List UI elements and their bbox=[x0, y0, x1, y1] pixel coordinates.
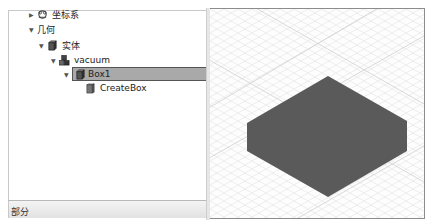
selection-highlight[interactable]: Box1 bbox=[72, 67, 207, 81]
3d-viewport[interactable] bbox=[210, 8, 425, 219]
tree-item-label: Box1 bbox=[88, 69, 110, 79]
expand-arrow-icon[interactable]: ▶ bbox=[29, 11, 37, 18]
collapse-arrow-icon[interactable]: ▼ bbox=[39, 42, 47, 49]
tree-item-label: 坐标系 bbox=[52, 8, 79, 21]
tree-item-label: 几何 bbox=[37, 23, 55, 36]
collapse-arrow-icon[interactable]: ▼ bbox=[64, 71, 72, 78]
coordinate-system-icon bbox=[37, 9, 48, 20]
collapse-arrow-icon[interactable]: ▼ bbox=[29, 26, 37, 33]
tree-item-box1[interactable]: ▼ Box1 bbox=[64, 67, 207, 81]
tree-item-createbox[interactable]: CreateBox bbox=[85, 81, 147, 95]
tree-item-geometry[interactable]: ▼ 几何 bbox=[29, 22, 55, 36]
model-tree[interactable]: ▶ 坐标系 ▼ 几何 ▼ 实体 ▼ vacuum ▼ bbox=[8, 10, 206, 200]
tree-item-label: CreateBox bbox=[100, 83, 147, 93]
tree-item-label: 实体 bbox=[62, 39, 80, 52]
tree-item-vacuum[interactable]: ▼ vacuum bbox=[51, 53, 110, 67]
tree-item-coordinate-system[interactable]: ▶ 坐标系 bbox=[29, 7, 79, 21]
create-box-icon bbox=[85, 83, 96, 94]
collapse-arrow-icon[interactable]: ▼ bbox=[51, 57, 59, 64]
box-icon bbox=[75, 69, 86, 80]
tree-item-solids[interactable]: ▼ 实体 bbox=[39, 38, 80, 52]
properties-tab-label[interactable]: 部分 bbox=[11, 207, 29, 217]
isometric-grid bbox=[210, 9, 425, 219]
solid-icon bbox=[47, 40, 58, 51]
properties-tab-bar[interactable]: 部分 bbox=[8, 200, 206, 218]
group-icon bbox=[59, 55, 70, 66]
tree-item-label: vacuum bbox=[74, 55, 110, 65]
